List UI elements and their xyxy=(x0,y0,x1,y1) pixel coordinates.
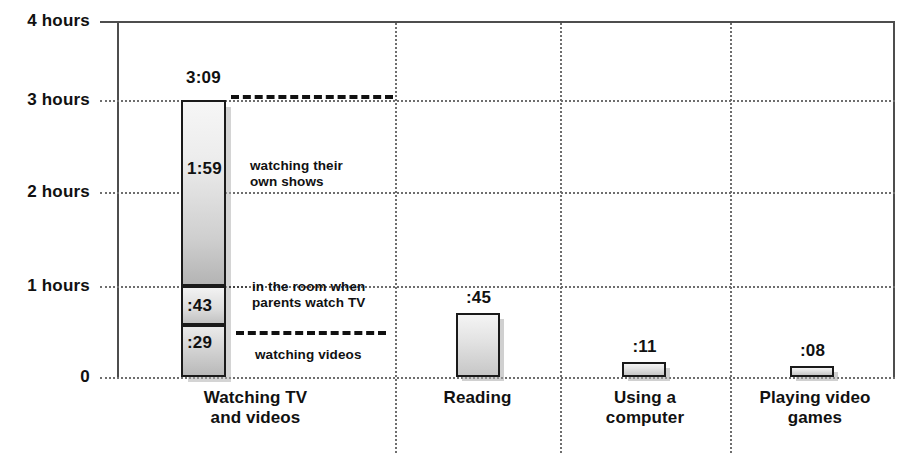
bar-watching-tv-and-videos[interactable]: 1:59 :43 :29 xyxy=(181,100,226,377)
category-label-reading: Reading xyxy=(400,388,555,408)
bar-value-label-playing-video-games: :08 xyxy=(765,341,860,361)
category-label-line-1: Reading xyxy=(400,388,555,408)
annotation-watching-videos: watching videos xyxy=(255,347,362,363)
bar-segment-label-parents-tv: :43 xyxy=(187,296,212,316)
bar-segment-watching-videos[interactable]: :29 xyxy=(181,325,226,377)
category-label-line-2: and videos xyxy=(123,408,388,428)
category-label-line-2: computer xyxy=(565,408,725,428)
bar-segment-parents-tv[interactable]: :43 xyxy=(181,286,226,325)
bar-segment-label-watching-videos: :29 xyxy=(187,333,212,353)
category-label-playing-video-games: Playing video games xyxy=(735,388,895,428)
category-label-line-2: games xyxy=(735,408,895,428)
annotation-own-shows: watching their own shows xyxy=(250,158,343,190)
bar-reading[interactable] xyxy=(456,313,500,377)
leader-line-watching-videos xyxy=(236,331,386,335)
y-tick-label-1-hour: 1 hours xyxy=(27,276,90,296)
category-separator-2 xyxy=(560,23,562,453)
bar-value-label-reading: :45 xyxy=(431,288,526,308)
annotation-parents-tv: in the room when parents watch TV xyxy=(252,279,365,311)
bar-using-a-computer[interactable] xyxy=(622,362,666,377)
category-label-line-1: Watching TV xyxy=(123,388,388,408)
y-tick-label-4-hours: 4 hours xyxy=(27,11,90,31)
gridline-baseline xyxy=(100,377,895,379)
bar-playing-video-games[interactable] xyxy=(790,366,834,377)
bar-segment-label-own-shows: 1:59 xyxy=(187,159,222,179)
category-label-using-a-computer: Using a computer xyxy=(565,388,725,428)
category-label-line-1: Playing video xyxy=(735,388,895,408)
bar-chart: 4 hours 3 hours 2 hours 1 hours 0 1:59 :… xyxy=(0,0,902,459)
category-separator-3 xyxy=(730,23,732,453)
y-tick-label-3-hours: 3 hours xyxy=(27,90,90,110)
category-separator-1 xyxy=(395,23,397,453)
bar-segment-own-shows[interactable]: 1:59 xyxy=(181,100,226,286)
tick-mark-4-hours xyxy=(100,21,122,23)
bar-value-label-using-a-computer: :11 xyxy=(597,337,692,357)
category-label-line-1: Using a xyxy=(565,388,725,408)
y-tick-label-0: 0 xyxy=(80,367,90,387)
y-tick-label-2-hours: 2 hours xyxy=(27,182,90,202)
leader-line-parents-tv xyxy=(229,286,247,288)
leader-line-own-shows xyxy=(231,95,393,99)
bar-value-label-watching-tv: 3:09 xyxy=(156,68,251,88)
category-label-watching-tv-and-videos: Watching TV and videos xyxy=(123,388,388,428)
